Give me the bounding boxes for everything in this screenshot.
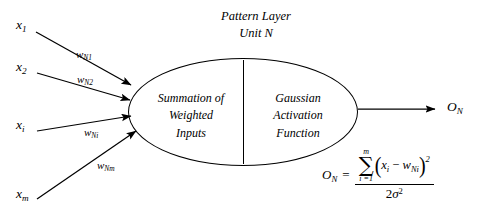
sigma-icon: ∑	[359, 156, 374, 175]
formula-numerator: m ∑ i =1 ( xi − wNi ) 2	[355, 148, 434, 184]
paren-close: )	[419, 152, 426, 179]
pnn-pattern-layer-diagram: Pattern Layer Unit N Summation of Weight…	[0, 0, 487, 218]
formula-denominator: 2σ2	[386, 185, 403, 202]
summation-operator: m ∑ i =1	[359, 148, 374, 183]
input-arrow-m	[37, 131, 136, 199]
output-label-ON: ON	[447, 100, 463, 114]
formula-equals: =	[342, 167, 349, 183]
input-label-x2: x2	[16, 60, 27, 74]
formula-lhs: ON	[322, 167, 337, 183]
paren-open: (	[375, 152, 382, 179]
input-label-xm: xm	[16, 187, 29, 201]
formula-fraction: m ∑ i =1 ( xi − wNi ) 2 2σ2	[355, 148, 434, 202]
sum-lower-limit: i =1	[359, 175, 373, 183]
numerator-expression: xi − wNi	[381, 158, 419, 173]
gaussian-distance-formula: ON = m ∑ i =1 ( xi − wNi ) 2 2σ2	[322, 148, 434, 202]
weight-label-wNi: wNi	[84, 127, 98, 138]
input-label-x1: x1	[16, 18, 27, 32]
input-label-xi: xi	[16, 118, 25, 132]
weight-label-wN1: wN1	[76, 49, 92, 60]
weight-label-wNm: wNm	[97, 160, 115, 171]
numerator-exponent: 2	[426, 154, 430, 164]
weight-label-wN2: wN2	[77, 74, 93, 85]
